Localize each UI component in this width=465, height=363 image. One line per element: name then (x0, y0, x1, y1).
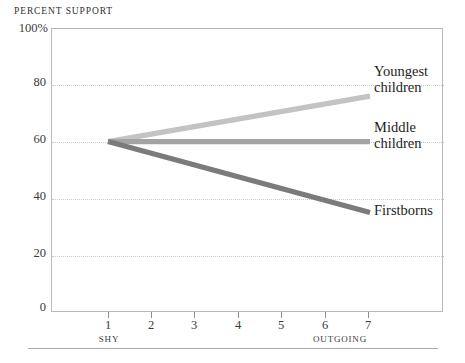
series-label-firstborns-line1: Firstborns (374, 203, 433, 219)
series-label-firstborns: Firstborns (374, 203, 433, 219)
line-youngest-children (108, 96, 370, 141)
chart-figure: PERCENT SUPPORT 100% 80 60 40 20 0 1 2 3… (0, 0, 465, 363)
footer-rule (28, 348, 438, 349)
series-label-youngest-children: Youngest children (374, 64, 428, 95)
line-firstborns (108, 142, 370, 213)
series-label-youngest-line2: children (374, 80, 428, 96)
series-label-middle-children: Middle children (374, 120, 422, 151)
series-label-middle-line1: Middle (374, 120, 422, 136)
series-label-middle-line2: children (374, 136, 422, 152)
series-lines (0, 0, 465, 363)
series-label-youngest-line1: Youngest (374, 64, 428, 80)
